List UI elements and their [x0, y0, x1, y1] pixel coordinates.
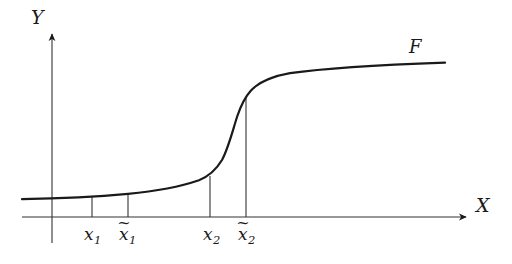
tick-subscript-x2: 2	[213, 233, 220, 247]
tick-base-x1: x	[84, 224, 94, 244]
y-axis-label: Y	[31, 8, 44, 27]
tick-base-x2: x	[203, 224, 213, 244]
tick-subscript-xt1: 1	[129, 233, 136, 247]
tick-label-x2: x2	[203, 226, 220, 247]
tick-subscript-xt2: 2	[248, 233, 255, 247]
plot-canvas	[0, 0, 512, 264]
tilde-wrap-xt1: ~x	[119, 226, 129, 243]
tick-label-x1: x1	[84, 226, 101, 247]
tick-label-xt2: ~x2	[238, 226, 255, 247]
tilde-icon: ~	[117, 217, 130, 231]
tilde-wrap-xt2: ~x	[238, 226, 248, 243]
tilde-icon: ~	[236, 217, 249, 231]
figure-container: Y X F x1 ~x1 x2 ~x2	[0, 0, 512, 264]
x-axis-label: X	[476, 196, 490, 215]
tick-label-xt1: ~x1	[119, 226, 136, 247]
curve-F	[22, 63, 445, 200]
curve-label-F: F	[409, 38, 422, 56]
tick-subscript-x1: 1	[94, 233, 101, 247]
